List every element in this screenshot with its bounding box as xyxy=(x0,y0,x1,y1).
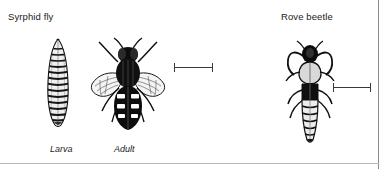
syrphid-larva-illustration xyxy=(42,38,74,128)
panel-border-right xyxy=(378,0,379,169)
scale-bar-line xyxy=(333,87,371,88)
insect-figure-panel: Syrphid fly Rove beetle xyxy=(0,0,390,169)
scale-bar-syrphid xyxy=(174,63,213,72)
heading-syrphid-fly: Syrphid fly xyxy=(8,11,53,22)
scale-bar-cap-right xyxy=(212,63,213,72)
scale-bar-rove-beetle xyxy=(333,83,371,92)
syrphid-adult-illustration xyxy=(90,36,166,132)
rove-beetle-illustration xyxy=(283,40,337,145)
scale-bar-line xyxy=(174,67,213,68)
caption-adult: Adult xyxy=(114,144,135,154)
panel-border-bottom xyxy=(0,163,379,164)
scale-bar-cap-right xyxy=(370,83,371,92)
heading-rove-beetle: Rove beetle xyxy=(281,11,333,22)
caption-larva: Larva xyxy=(50,144,73,154)
